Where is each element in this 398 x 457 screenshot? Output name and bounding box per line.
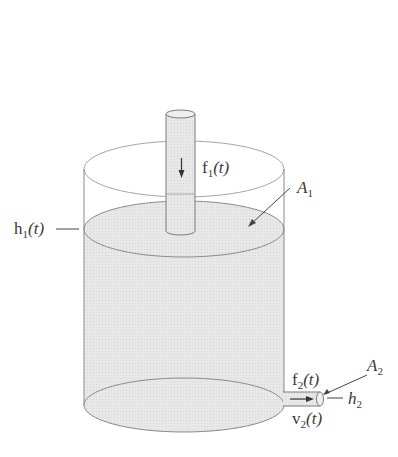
outlet-velocity-label: v2(t) xyxy=(292,409,322,430)
outflow-label: f2(t) xyxy=(292,370,320,391)
outlet-height-label: h2 xyxy=(348,389,362,410)
liquid-volume xyxy=(84,201,284,432)
level-label: h1(t) xyxy=(14,219,44,240)
inflow-label: f1(t) xyxy=(202,158,230,179)
a2-pointer-icon xyxy=(323,389,330,395)
outlet-area-label: A2 xyxy=(366,356,383,377)
tank-diagram: f1(t) A1 h1(t) f2(t) A2 h2 v2(t) xyxy=(0,0,398,457)
tank-area-label: A1 xyxy=(296,178,313,199)
